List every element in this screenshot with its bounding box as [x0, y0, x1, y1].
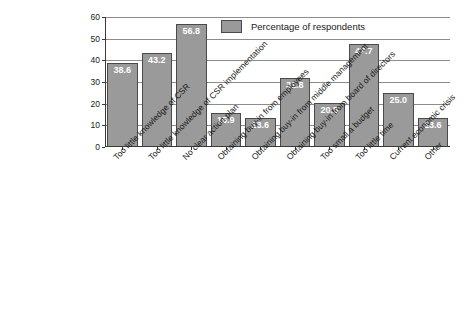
bar-value-label: 25.0	[384, 96, 413, 105]
x-axis-tick-mark	[122, 147, 123, 150]
bar-value-label: 31.8	[281, 81, 310, 90]
bar: 47.7	[349, 44, 380, 147]
bar-slot: 15.9	[209, 17, 244, 147]
bar-value-label: 13.6	[419, 121, 448, 130]
bar-slot: 31.8	[278, 17, 313, 147]
bar: 25.0	[383, 93, 414, 147]
y-axis-tick-label: 60	[91, 13, 100, 22]
bar-value-label: 20.5	[315, 106, 344, 115]
y-axis-tick-label: 20	[91, 99, 100, 108]
y-axis-tick-mark	[102, 17, 105, 18]
bar-slot: 20.5	[312, 17, 347, 147]
y-axis-tick-label: 30	[91, 78, 100, 87]
bar-value-label: 47.7	[350, 47, 379, 56]
y-axis-tick-mark	[102, 147, 105, 148]
bar: 20.5	[314, 103, 345, 147]
y-axis-line	[105, 17, 106, 147]
y-axis-tick-mark	[102, 125, 105, 126]
y-axis-tick-label: 50	[91, 34, 100, 43]
y-axis-tick-label: 40	[91, 56, 100, 65]
x-axis-line	[105, 146, 450, 147]
x-axis-tick-mark	[226, 147, 227, 150]
bar-value-label: 56.8	[177, 27, 206, 36]
bar-value-label: 43.2	[143, 56, 172, 65]
x-axis-tick-mark	[295, 147, 296, 150]
bar: 31.8	[280, 78, 311, 147]
bar: 56.8	[176, 24, 207, 147]
bar-value-label: 15.9	[212, 116, 241, 125]
x-axis-tick-mark	[364, 147, 365, 150]
x-axis-tick-mark	[433, 147, 434, 150]
y-axis-tick-labels: 0102030405060	[78, 17, 100, 147]
bar-slot: 13.6	[416, 17, 451, 147]
legend-label-percentage-of-respondents: Percentage of respondents	[251, 22, 365, 32]
x-axis-tick-mark	[260, 147, 261, 150]
bar-slot: 25.0	[381, 17, 416, 147]
bar: 43.2	[142, 53, 173, 147]
plot-area: 38.643.256.815.913.631.820.547.725.013.6	[105, 17, 450, 147]
x-axis-tick-mark	[398, 147, 399, 150]
bar-value-label: 13.6	[246, 121, 275, 130]
bar-slot: 56.8	[174, 17, 209, 147]
bar: 13.6	[418, 118, 449, 147]
bar-slot: 47.7	[347, 17, 382, 147]
x-axis-tick-mark	[157, 147, 158, 150]
bar-slot: 43.2	[140, 17, 175, 147]
y-axis-tick-mark	[102, 104, 105, 105]
y-axis-tick-label: 10	[91, 121, 100, 130]
bar: 15.9	[211, 113, 242, 147]
bar-slot: 13.6	[243, 17, 278, 147]
y-axis-tick-mark	[102, 82, 105, 83]
bar: 13.6	[245, 118, 276, 147]
bar: 38.6	[107, 63, 138, 147]
bar-value-label: 38.6	[108, 66, 137, 75]
y-axis-tick-label: 0	[95, 143, 100, 152]
x-axis-tick-mark	[191, 147, 192, 150]
y-axis-tick-mark	[102, 39, 105, 40]
bar-chart-figure: 0102030405060 38.643.256.815.913.631.820…	[0, 0, 472, 326]
bar-slot: 38.6	[105, 17, 140, 147]
bar-series: 38.643.256.815.913.631.820.547.725.013.6	[105, 17, 450, 147]
legend-swatch-percentage-of-respondents	[221, 20, 242, 33]
y-axis-tick-mark	[102, 60, 105, 61]
x-axis-tick-mark	[329, 147, 330, 150]
legend: Percentage of respondents	[221, 20, 365, 33]
